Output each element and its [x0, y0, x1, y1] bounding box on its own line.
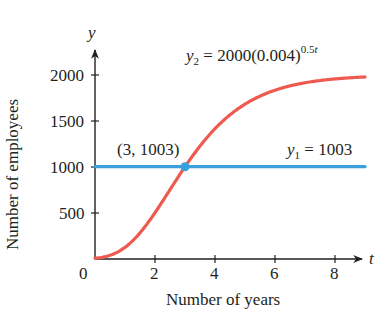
y-tick-label-2000: 2000	[50, 67, 84, 84]
y-axis-symbol: y	[88, 24, 96, 41]
series-y1-sub: 1	[295, 149, 301, 161]
y-tick-label-500: 500	[59, 205, 85, 222]
series-y2-exp-var: t	[314, 43, 317, 55]
x-tick-label-6: 6	[270, 265, 279, 282]
series-y2-label: y2 = 2000(0.004)0.5t	[186, 47, 318, 64]
series-y2-sub: 2	[194, 55, 200, 67]
x-axis-symbol: t	[369, 250, 374, 267]
series-y2-eq: = 2000(0.004)	[203, 46, 300, 65]
y-axis-title: Number of employees	[3, 99, 23, 250]
series-y1-var: y	[287, 140, 295, 159]
y-tick-label-1000: 1000	[50, 159, 84, 176]
x-tick-label-4: 4	[210, 265, 219, 282]
series-y1-eq: = 1003	[304, 140, 352, 159]
intersection-annotation: (3, 1003)	[117, 141, 179, 158]
x-tick-label-8: 8	[330, 265, 339, 282]
origin-label: 0	[79, 265, 88, 282]
series-y1-label: y1 = 1003	[287, 141, 352, 158]
x-tick-label-2: 2	[150, 265, 159, 282]
y-tick-label-1500: 1500	[50, 113, 84, 130]
series-y2-exp: 0.5	[301, 43, 315, 55]
series-y2-var: y	[186, 46, 194, 65]
intersection-point-marker	[181, 162, 190, 171]
x-axis-title: Number of years	[166, 291, 280, 308]
